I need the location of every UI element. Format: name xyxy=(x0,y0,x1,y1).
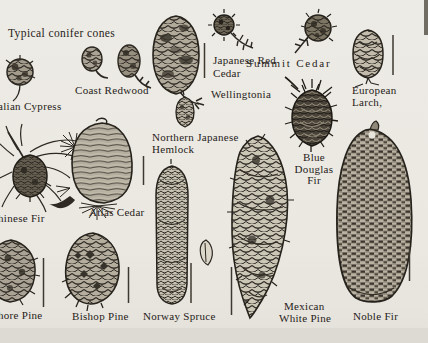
summit-cedar-cone-illustration xyxy=(295,9,337,53)
coast-redwood-cones-illustration xyxy=(82,45,151,88)
label-atlas-cedar: Atlas Cedar xyxy=(89,206,145,218)
wellingtonia-cone-illustration xyxy=(153,16,204,109)
figure-title-text: Typical conifer cones xyxy=(8,27,115,39)
northern-japanese-hemlock-cone-illustration xyxy=(176,91,194,127)
japanese-red-cedar-cone-illustration xyxy=(208,9,253,50)
label-shore-pine: hore Pine xyxy=(0,309,43,321)
label-summit-cedar: Summit Cedar xyxy=(246,57,331,69)
label-northern-japanese-hemlock: Northern Japanese Hemlock xyxy=(152,131,239,155)
label-norway-spruce: Norway Spruce xyxy=(143,310,216,322)
label-blue-douglas-fir: Blue Douglas Fir xyxy=(288,152,340,187)
conifer-cones-illustration-plate xyxy=(0,0,428,343)
label-mexican-white-pine: Mexican White Pine xyxy=(279,301,331,324)
book-page: Typical conifer cones alian Cypress Coas… xyxy=(0,0,428,343)
shore-pine-cone-illustration xyxy=(0,240,40,305)
figure-title: Typical conifer cones xyxy=(8,27,115,39)
label-italian-cypress: alian Cypress xyxy=(0,100,61,112)
blue-douglas-fir-cone-illustration xyxy=(285,77,338,152)
label-bishop-pine: Bishop Pine xyxy=(72,310,129,322)
norway-spruce-cone-illustration xyxy=(156,159,188,304)
page-bottom-edge xyxy=(0,328,428,343)
mexican-white-pine-cone-illustration xyxy=(227,134,294,318)
bishop-pine-cone-illustration xyxy=(62,233,119,311)
page-edge-mark xyxy=(424,0,428,35)
label-chinese-fir: hinese Fir xyxy=(0,212,45,224)
italian-cypress-cone-illustration xyxy=(6,55,35,101)
european-larch-cone-illustration xyxy=(353,30,383,87)
label-wellingtonia: Wellingtonia xyxy=(211,88,271,100)
norway-spruce-seed-scale-illustration xyxy=(200,240,212,265)
label-noble-fir: Noble Fir xyxy=(353,310,398,322)
noble-fir-cone-illustration xyxy=(337,121,412,302)
label-european-larch: European Larch, xyxy=(352,84,397,108)
atlas-cedar-cone-illustration xyxy=(49,118,132,220)
label-coast-redwood: Coast Redwood xyxy=(75,84,149,96)
